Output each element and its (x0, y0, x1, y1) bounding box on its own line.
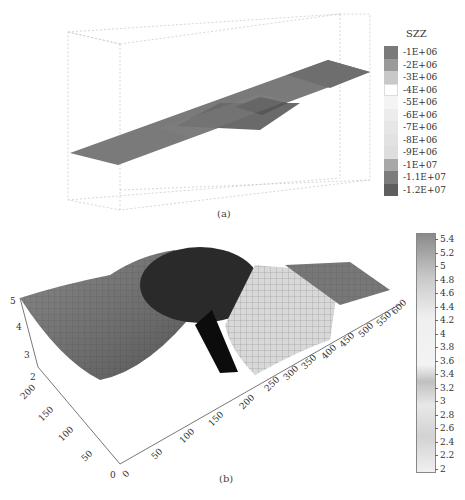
z-tick: 4 (16, 322, 22, 332)
colorbar-label: 5.2 (440, 248, 454, 258)
colorbar-label: 4 (440, 329, 446, 339)
colorbar-label: 2.6 (440, 423, 454, 433)
caption-b: (b) (219, 473, 233, 484)
legend-label: -8E+06 (403, 135, 437, 145)
surface-plot-3d: 5 4 3 2 200 150 100 50 0 0 50 100 150 20… (0, 230, 415, 480)
colorbar-label: 4.4 (440, 302, 454, 312)
slab-plot-3d (0, 0, 380, 215)
legend-swatch (384, 184, 398, 197)
colorbar-tick (435, 347, 438, 348)
colorbar-tick (435, 239, 438, 240)
legend-swatch (384, 171, 398, 184)
y-tick: 150 (36, 404, 55, 423)
legend-swatch (384, 46, 398, 59)
y-tick: 200 (18, 382, 37, 401)
legend-swatch (384, 109, 398, 122)
colorbar-label: 3.2 (440, 383, 454, 393)
colorbar-label: 2.4 (440, 437, 454, 447)
colorbar-tick (435, 428, 438, 429)
colorbar-label: 3.6 (440, 356, 454, 366)
z-tick: 2 (30, 372, 36, 382)
legend-label: -3E+06 (403, 72, 437, 82)
x-tick: 250 (262, 374, 281, 393)
colorbar-tick (435, 442, 438, 443)
panel-a-stress-contour: SZZ -1E+06 -2E+06 -3E+06 -4E+06 -5E+06 -… (0, 0, 465, 230)
colorbar-tick (435, 280, 438, 281)
colorbar-tick (435, 361, 438, 362)
legend-entries: -1E+06 -2E+06 -3E+06 -4E+06 -5E+06 -6E+0… (384, 46, 465, 206)
z-tick: 5 (10, 296, 16, 306)
x-tick: 450 (337, 330, 356, 349)
legend-label: -7E+06 (403, 122, 437, 132)
colorbar-label: 2 (440, 464, 446, 474)
legend-title: SZZ (406, 28, 427, 39)
colorbar-tick (435, 415, 438, 416)
y-tick: 0 (110, 470, 116, 480)
colorbar-tick (435, 469, 438, 470)
colorbar-label: 4.2 (440, 315, 454, 325)
x-tick: 50 (149, 446, 164, 461)
y-tick: 100 (56, 424, 75, 443)
legend-swatch (384, 71, 398, 84)
legend-label: -1E+07 (403, 160, 437, 170)
x-tick: 0 (120, 468, 131, 479)
colorbar-tick (435, 388, 438, 389)
colorbar-label: 2.8 (440, 410, 454, 420)
colorbar-tick (435, 320, 438, 321)
legend-swatch (384, 96, 398, 109)
colorbar-label: 5 (440, 261, 446, 271)
legend-swatch (384, 134, 398, 147)
colorbar-label: 3 (440, 396, 446, 406)
colorbar-tick (435, 334, 438, 335)
legend-swatch (384, 159, 398, 172)
legend-swatch (384, 84, 398, 97)
colorbar-tick (435, 401, 438, 402)
colorbar-b: 5.4 5.2 5 4.8 4.6 4.4 4.2 4 3.8 3.6 3.4 … (416, 233, 436, 473)
colorbar-label: 4.6 (440, 288, 454, 298)
legend-label: -5E+06 (403, 97, 437, 107)
colorbar-label: 4.8 (440, 275, 454, 285)
colorbar-tick (435, 266, 438, 267)
y-tick: 50 (79, 448, 94, 463)
legend-swatch (384, 59, 398, 72)
colorbar-tick (435, 293, 438, 294)
colorbar-label: 2.2 (440, 450, 454, 460)
x-tick: 400 (319, 342, 338, 361)
x-tick: 150 (206, 409, 225, 428)
legend-label: -1.2E+07 (403, 185, 446, 195)
legend-label: -9E+06 (403, 147, 437, 157)
legend-swatch (384, 146, 398, 159)
x-tick: 100 (177, 426, 196, 445)
legend-label: -2E+06 (403, 60, 437, 70)
legend-swatch (384, 121, 398, 134)
legend-label: -1E+06 (403, 47, 437, 57)
colorbar-tick (435, 374, 438, 375)
x-tick: 350 (299, 352, 318, 371)
x-tick: 600 (389, 297, 408, 316)
caption-a: (a) (217, 208, 231, 219)
panel-b-surface-plot: 5 4 3 2 200 150 100 50 0 0 50 100 150 20… (0, 230, 465, 500)
colorbar-label: 5.4 (440, 234, 454, 244)
x-tick: 300 (281, 363, 300, 382)
legend-label: -6E+06 (403, 110, 437, 120)
colorbar-tick (435, 455, 438, 456)
colorbar-label: 3.8 (440, 342, 454, 352)
legend-label: -4E+06 (403, 85, 437, 95)
colorbar-label: 3.4 (440, 369, 454, 379)
z-tick: 3 (24, 350, 30, 360)
colorbar-tick (435, 253, 438, 254)
colorbar-tick (435, 307, 438, 308)
x-tick: 500 (356, 320, 375, 339)
legend-label: -1.1E+07 (403, 172, 446, 182)
